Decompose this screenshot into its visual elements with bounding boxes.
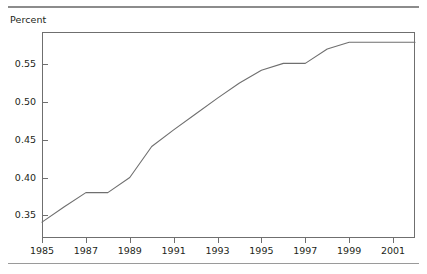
y-tick-label: 0.55	[6, 58, 36, 69]
y-tick-label: 0.35	[6, 209, 36, 220]
x-tick-label: 1999	[329, 245, 369, 256]
x-tick-label: 2001	[373, 245, 413, 256]
x-tick-label: 1993	[198, 245, 238, 256]
x-tick-label: 1989	[110, 245, 150, 256]
chart-figure: Percent 0.350.400.450.500.55 19851987198…	[0, 0, 427, 274]
y-tick-label: 0.40	[6, 172, 36, 183]
bottom-divider-rule	[8, 263, 419, 264]
y-tick-label: 0.50	[6, 96, 36, 107]
top-divider-rule	[8, 6, 419, 8]
x-tick-label: 1987	[66, 245, 106, 256]
x-tick-label: 1991	[154, 245, 194, 256]
x-tick-label: 1985	[22, 245, 62, 256]
plot-area-frame	[42, 32, 415, 238]
y-tick-label: 0.45	[6, 134, 36, 145]
y-axis-title: Percent	[10, 14, 46, 25]
x-tick-label: 1995	[241, 245, 281, 256]
x-tick-label: 1997	[285, 245, 325, 256]
